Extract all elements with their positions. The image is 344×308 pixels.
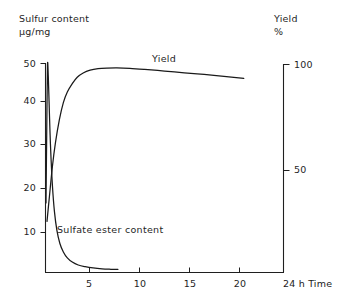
right-tick-label-50: 50 [294, 164, 320, 175]
right-axis-title-unit: % [274, 26, 283, 37]
left-tick-label-30: 30 [14, 138, 36, 149]
x-axis-end-label: 24 h Time [283, 278, 332, 289]
right-axis-title-line1: Yield [274, 13, 298, 24]
left-tick-label-50: 50 [14, 58, 36, 69]
sulfate-curve-label: Sulfate ester content [57, 224, 163, 235]
left-axis-title-unit: µg/mg [19, 26, 51, 37]
right-axis-group [284, 64, 290, 272]
left-tick-label-20: 20 [14, 182, 36, 193]
left-axis-title-line1: Sulfur content [19, 13, 89, 24]
x-tick-label-15: 15 [178, 278, 202, 289]
yield-curve-label: Yield [152, 53, 176, 64]
left-tick-label-10: 10 [14, 226, 36, 237]
sulfate-ester-curve [46, 62, 118, 269]
right-axis-title: Yield% [274, 12, 298, 38]
yield-curve [47, 68, 244, 221]
plot-area [0, 0, 344, 308]
x-tick-label-5: 5 [77, 278, 101, 289]
left-tick-label-40: 40 [14, 95, 36, 106]
left-axis-title: Sulfur contentµg/mg [19, 12, 89, 38]
left-axis-group [41, 63, 46, 272]
chart-figure: Sulfur contentµg/mg Yield% 50 40 30 20 1… [0, 0, 344, 308]
x-tick-label-20: 20 [228, 278, 252, 289]
x-tick-label-10: 10 [128, 278, 152, 289]
right-tick-label-100: 100 [294, 59, 320, 70]
x-axis-group [45, 268, 284, 273]
